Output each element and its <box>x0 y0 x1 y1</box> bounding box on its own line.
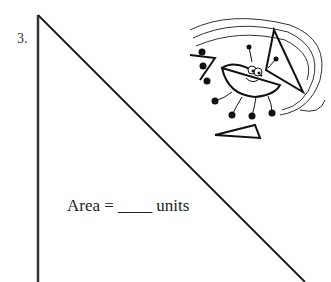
worksheet-page: 3. <box>0 0 331 282</box>
area-answer-label: Area = ____ units <box>67 196 189 216</box>
bug-clipart-icon <box>0 0 331 282</box>
